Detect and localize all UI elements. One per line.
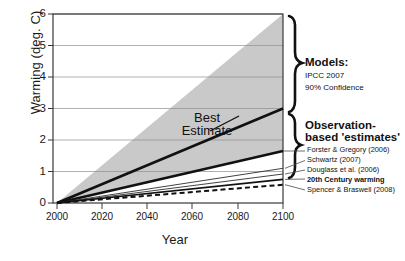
legend-item-forster-gregory-2006: Forster & Gregory (2006) [307,146,390,154]
x-tick-2020: 2020 [80,211,124,222]
y-tick-4: 4 [24,70,46,82]
legend-observations-heading-line-2: based 'estimates' [305,131,400,143]
legend-item-spencer-braswell-2008: Spencer & Braswell (2008) [307,186,395,194]
legend-models-line-2: 90% Confidence [305,83,364,93]
y-tick-0: 0 [24,196,46,208]
best-estimate-annotation: Best Estimate [176,112,238,137]
legend-item-douglass-2006: Douglass et al. (2006) [307,166,379,174]
legend-models-line-1: IPCC 2007 [305,71,344,81]
best-estimate-annotation-line2: Estimate [176,125,238,138]
x-tick-2100: 2100 [261,211,305,222]
x-axis-ticks [57,203,283,209]
y-tick-2: 2 [24,133,46,145]
x-tick-2000: 2000 [35,211,79,222]
observations-brace-icon [289,114,301,178]
legend-item-20th-century-warming: 20th Century warming [307,176,385,184]
models-brace-icon [289,16,302,112]
legend-item-schwartz-2007: Schwartz (2007) [307,156,361,164]
x-axis-label: Year [55,232,295,247]
y-tick-3: 3 [24,102,46,114]
x-tick-2080: 2080 [216,211,260,222]
climate-warming-projection-chart: Warming (deg. C) Year 0 1 2 3 4 5 6 2000… [0,0,405,261]
x-tick-2040: 2040 [125,211,169,222]
legend-models-heading: Models: [305,56,348,68]
legend-observations-heading-line-1: Observation- [305,119,376,131]
x-tick-2060: 2060 [170,211,214,222]
y-tick-6: 6 [24,7,46,19]
y-axis-ticks [48,14,53,203]
y-tick-5: 5 [24,39,46,51]
y-tick-1: 1 [24,165,46,177]
